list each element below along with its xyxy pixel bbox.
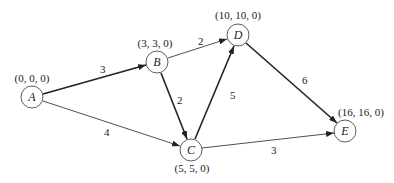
- node-e-label: E: [340, 124, 349, 138]
- node-c: C (5, 5, 0): [175, 139, 210, 175]
- edges: [43, 39, 337, 148]
- node-a-annotation: (0, 0, 0): [15, 72, 50, 85]
- node-d-label: D: [233, 28, 243, 42]
- node-e: E (16, 16, 0): [334, 106, 384, 142]
- edge-c-e: [202, 133, 334, 148]
- node-b: B (3, 3, 0): [138, 37, 173, 73]
- weight-a-b: 3: [100, 63, 106, 75]
- node-a: A (0, 0, 0): [15, 72, 50, 108]
- node-b-annotation: (3, 3, 0): [138, 37, 173, 50]
- node-c-annotation: (5, 5, 0): [175, 162, 210, 175]
- weight-b-c: 2: [177, 94, 183, 106]
- weight-c-e: 3: [271, 144, 277, 156]
- weight-b-d: 2: [198, 35, 204, 47]
- edge-a-b: [43, 65, 146, 94]
- node-a-label: A: [27, 90, 36, 104]
- weight-d-e: 6: [302, 74, 308, 86]
- edge-weights: 3 4 2 2 5 6 3: [100, 35, 308, 156]
- weight-c-d: 5: [230, 89, 236, 101]
- edge-b-c: [161, 73, 187, 139]
- node-e-annotation: (16, 16, 0): [338, 106, 384, 119]
- graph-canvas: 3 4 2 2 5 6 3 A (0, 0, 0) B (3, 3, 0) C …: [0, 0, 394, 183]
- node-c-label: C: [187, 143, 196, 157]
- edge-d-e: [246, 43, 337, 123]
- edge-c-d: [195, 46, 234, 139]
- node-d-annotation: (10, 10, 0): [215, 9, 261, 22]
- edge-a-c: [43, 101, 180, 146]
- node-b-label: B: [153, 55, 161, 69]
- weight-a-c: 4: [104, 126, 110, 138]
